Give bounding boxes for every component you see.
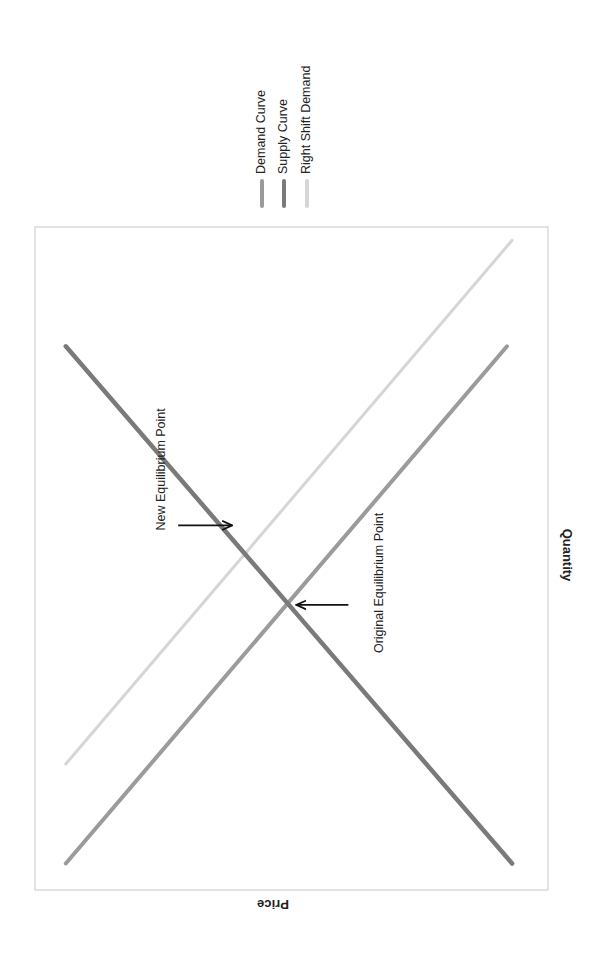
supply-demand-chart: Original Equilibrium PointNew Equilibriu… (0, 0, 596, 959)
series-line-right-shift-demand (66, 240, 512, 764)
x-axis-label: Quantity (560, 529, 575, 582)
legend-label-supply-curve: Supply Curve (276, 99, 290, 174)
legend: Demand CurveSupply CurveRight Shift Dema… (254, 66, 313, 206)
annotation-label-new-equilibrium-point: New Equilibrium Point (154, 408, 168, 531)
plot-frame (35, 227, 548, 890)
legend-label-demand-curve: Demand Curve (254, 90, 268, 174)
legend-label-right-shift-demand: Right Shift Demand (299, 66, 313, 174)
series-layer (66, 240, 512, 863)
y-axis-label: Price (257, 897, 289, 912)
annotation-label-original-equilibrium-point: Original Equilibrium Point (372, 512, 386, 653)
